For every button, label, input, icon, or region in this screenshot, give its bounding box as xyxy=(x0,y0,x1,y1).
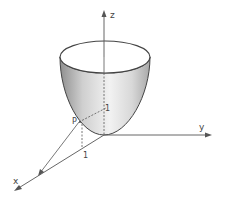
y-axis-label: y xyxy=(199,122,205,132)
paraboloid-diagram: z y x P 1 1 xyxy=(0,0,225,199)
paraboloid-rim xyxy=(60,41,150,73)
z-axis-arrow-icon xyxy=(102,10,107,17)
point-p-marker xyxy=(79,121,81,123)
point-p-label: P xyxy=(72,117,77,126)
p-vector-arrow-icon xyxy=(38,169,44,176)
x-axis-label: x xyxy=(13,176,19,186)
inner-one-label: 1 xyxy=(105,104,110,113)
y-axis-arrow-icon xyxy=(205,133,212,138)
x-axis-one-label: 1 xyxy=(83,151,88,160)
p-vector-line xyxy=(40,122,79,173)
x-axis xyxy=(17,135,104,189)
z-axis-label: z xyxy=(110,10,115,20)
